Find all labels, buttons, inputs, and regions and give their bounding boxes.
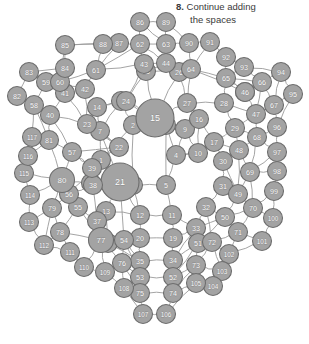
graph-node[interactable]: 68 <box>248 128 267 147</box>
graph-node[interactable]: 92 <box>217 48 236 67</box>
graph-node[interactable]: 43 <box>135 55 154 74</box>
graph-node[interactable]: 77 <box>89 228 114 253</box>
graph-node[interactable]: 24 <box>117 92 136 111</box>
graph-node[interactable]: 67 <box>265 96 284 115</box>
graph-node[interactable]: 82 <box>8 87 27 106</box>
graph-node[interactable]: 48 <box>230 141 249 160</box>
edge <box>234 211 245 215</box>
graph-node[interactable]: 81 <box>40 131 59 150</box>
graph-node[interactable]: 80 <box>50 168 75 193</box>
edge <box>196 49 205 61</box>
graph-node[interactable]: 88 <box>94 35 113 54</box>
node-label: 100 <box>268 215 279 222</box>
graph-node[interactable]: 91 <box>201 33 220 52</box>
graph-node[interactable]: 111 <box>61 243 80 262</box>
graph-node[interactable]: 114 <box>21 186 40 205</box>
graph-node[interactable]: 117 <box>23 128 42 147</box>
graph-node[interactable]: 11 <box>163 206 182 225</box>
graph-node[interactable]: 54 <box>115 231 134 250</box>
graph-node[interactable]: 16 <box>190 110 209 129</box>
graph-node[interactable]: 106 <box>157 305 176 324</box>
node-label: 16 <box>195 115 203 124</box>
node-label: 31 <box>219 182 227 191</box>
edge <box>243 216 248 225</box>
node-label: 2 <box>131 121 135 130</box>
graph-node[interactable]: 23 <box>78 115 97 134</box>
node-label: 17 <box>210 138 218 147</box>
graph-node[interactable]: 62 <box>131 35 150 54</box>
graph-node[interactable]: 89 <box>157 13 176 32</box>
graph-node[interactable]: 5 <box>157 176 176 195</box>
graph-node[interactable]: 84 <box>56 59 75 78</box>
graph-node[interactable]: 4 <box>167 146 186 165</box>
graph-node[interactable]: 70 <box>244 199 263 218</box>
graph-node[interactable]: 61 <box>87 61 106 80</box>
graph-node[interactable]: 112 <box>35 236 54 255</box>
graph-node[interactable]: 47 <box>247 105 266 124</box>
graph-node[interactable]: 10 <box>189 144 208 163</box>
graph-node[interactable]: 65 <box>217 69 236 88</box>
graph-node[interactable]: 42 <box>76 80 95 99</box>
edge <box>38 69 56 71</box>
graph-node[interactable]: 104 <box>204 277 223 296</box>
node-label: 92 <box>222 53 230 62</box>
graph-node[interactable]: 100 <box>264 209 283 228</box>
graph-node[interactable]: 14 <box>88 98 107 117</box>
graph-node[interactable]: 69 <box>241 163 260 182</box>
graph-node[interactable]: 96 <box>268 118 287 137</box>
graph-node[interactable]: 21 <box>101 163 139 201</box>
graph-node[interactable]: 74 <box>164 284 183 303</box>
graph-node[interactable]: 28 <box>215 94 234 113</box>
graph-node[interactable]: 49 <box>229 185 248 204</box>
graph-node[interactable]: 90 <box>180 34 199 53</box>
graph-node[interactable]: 110 <box>75 258 94 277</box>
graph-node[interactable]: 86 <box>131 13 150 32</box>
node-label: 105 <box>191 280 202 287</box>
graph-node[interactable]: 73 <box>187 256 206 275</box>
graph-node[interactable]: 19 <box>164 229 183 248</box>
graph-node[interactable]: 57 <box>63 143 82 162</box>
graph-node[interactable]: 27 <box>178 94 197 113</box>
graph-node[interactable]: 50 <box>216 208 235 227</box>
graph-node[interactable]: 93 <box>235 58 254 77</box>
graph-node[interactable]: 63 <box>157 35 176 54</box>
graph-node[interactable]: 79 <box>43 199 62 218</box>
graph-node[interactable]: 58 <box>25 96 44 115</box>
graph-node[interactable]: 105 <box>187 274 206 293</box>
graph-node[interactable]: 107 <box>134 305 153 324</box>
graph-node[interactable]: 76 <box>113 254 132 273</box>
graph-node[interactable]: 22 <box>110 138 129 157</box>
graph-node[interactable]: 109 <box>96 263 115 282</box>
graph-node[interactable]: 38 <box>84 176 103 195</box>
graph-node[interactable]: 34 <box>164 251 183 270</box>
graph-node[interactable]: 94 <box>272 63 291 82</box>
graph-node[interactable]: 98 <box>268 162 287 181</box>
graph-node[interactable]: 115 <box>15 164 34 183</box>
graph-node[interactable]: 116 <box>19 147 38 166</box>
graph-node[interactable]: 95 <box>284 85 303 104</box>
graph-node[interactable]: 12 <box>131 206 150 225</box>
graph-node[interactable]: 72 <box>203 233 222 252</box>
graph-node[interactable]: 97 <box>268 143 287 162</box>
graph-node[interactable]: 113 <box>20 213 39 232</box>
graph-node[interactable]: 29 <box>226 119 245 138</box>
graph-node[interactable]: 78 <box>51 223 70 242</box>
graph-node[interactable]: 101 <box>253 232 272 251</box>
node-label: 22 <box>115 143 123 152</box>
node-label: 108 <box>119 285 130 292</box>
graph-node[interactable]: 99 <box>265 182 284 201</box>
graph-node[interactable]: 64 <box>182 60 201 79</box>
graph-node[interactable]: 46 <box>236 83 255 102</box>
graph-node[interactable]: 83 <box>20 63 39 82</box>
graph-node[interactable]: 85 <box>56 36 75 55</box>
graph-node[interactable]: 32 <box>197 198 216 217</box>
graph-node[interactable]: 15 <box>136 99 174 137</box>
graph-node[interactable]: 108 <box>115 279 134 298</box>
graph-node[interactable]: 102 <box>220 245 239 264</box>
graph-node[interactable]: 39 <box>83 159 102 178</box>
graph-node[interactable]: 44 <box>157 54 176 73</box>
graph-node[interactable]: 17 <box>205 133 224 152</box>
graph-node[interactable]: 66 <box>253 73 272 92</box>
graph-node[interactable]: 30 <box>214 152 233 171</box>
graph-node[interactable]: 71 <box>229 223 248 242</box>
